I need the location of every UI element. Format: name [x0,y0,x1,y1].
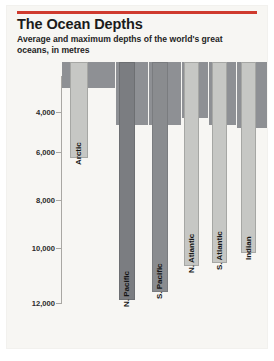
plot-area: 4,000 6,000 8,000 10,000 12,000 Arctic N… [17,62,257,332]
y-tick-label-10000: 10,000 [32,244,55,253]
chart-title: The Ocean Depths [17,16,143,32]
ocean-depths-chart: The Ocean Depths Average and maximum dep… [0,0,274,361]
bars-container: Arctic N. Pacific S. Pacific N. Atlantic [62,62,257,332]
y-tick-label-12000: 12,000 [32,299,55,308]
bar-label-arctic: Arctic [74,142,83,165]
bar-group-indian: Indian [237,62,267,332]
top-rule [17,11,257,14]
bar-group-s-atlantic: S. Atlantic [209,62,236,332]
chart-subtitle: Average and maximum depths of the world'… [17,34,233,56]
bar-group-n-pacific: N. Pacific [116,62,148,332]
bar-label-s-atlantic: S. Atlantic [215,231,224,270]
bar-maximum-s-pacific [152,62,168,292]
y-tick-label-6000: 6,000 [36,148,55,157]
bar-label-s-pacific: S. Pacific [155,263,164,299]
bar-group-s-pacific: S. Pacific [149,62,181,332]
bar-maximum-n-pacific [119,62,135,300]
bar-label-n-pacific: N. Pacific [122,271,131,307]
bar-group-n-atlantic: N. Atlantic [182,62,208,332]
bar-maximum-indian [241,62,256,253]
bar-group-arctic: Arctic [62,62,115,332]
y-tick-label-4000: 4,000 [36,108,55,117]
y-tick-label-8000: 8,000 [36,196,55,205]
bar-label-indian: Indian [244,236,253,260]
bar-label-n-atlantic: N. Atlantic [187,234,196,273]
